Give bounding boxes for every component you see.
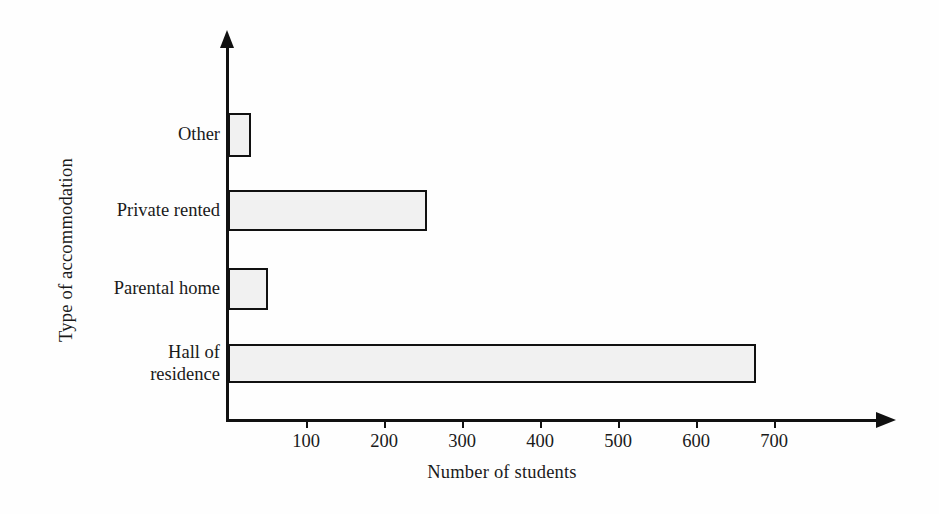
category-label: Parental home <box>114 278 220 299</box>
category-label: Private rented <box>117 200 220 221</box>
x-axis-tick-label: 300 <box>432 431 492 452</box>
x-axis-tick-label: 600 <box>666 431 726 452</box>
x-axis-tick <box>384 419 386 428</box>
bar <box>228 268 268 310</box>
x-axis-tick <box>774 419 776 428</box>
x-axis-tick-label: 400 <box>510 431 570 452</box>
category-label: Other <box>178 124 220 145</box>
x-axis-tick <box>306 419 308 428</box>
x-axis-line <box>226 419 881 422</box>
x-axis-tick <box>618 419 620 428</box>
y-axis-arrow-icon <box>220 30 234 48</box>
x-axis-tick <box>462 419 464 428</box>
category-label-wrap: Private rented <box>18 190 220 231</box>
x-axis-tick-label: 200 <box>354 431 414 452</box>
bar <box>228 113 251 157</box>
bar <box>228 190 427 231</box>
bar <box>228 344 756 383</box>
x-axis-arrow-icon <box>876 412 896 428</box>
category-label: Hall of residence <box>150 342 220 384</box>
bar-chart-figure: Type of accommodation OtherPrivate rente… <box>0 0 939 514</box>
x-axis-tick-label: 700 <box>744 431 804 452</box>
x-axis-tick <box>696 419 698 428</box>
category-label-wrap: Parental home <box>18 268 220 310</box>
x-axis-title: Number of students <box>228 462 776 483</box>
x-axis-tick-label: 500 <box>588 431 648 452</box>
x-axis-tick-label: 100 <box>276 431 336 452</box>
category-label-wrap: Hall of residence <box>18 344 220 383</box>
category-label-wrap: Other <box>18 113 220 157</box>
x-axis-tick <box>540 419 542 428</box>
